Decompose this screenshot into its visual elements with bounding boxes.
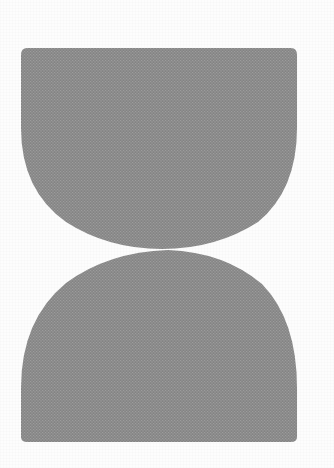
figure-canvas — [0, 0, 334, 468]
figure-svg — [0, 0, 334, 468]
upper-bowl-shape — [21, 48, 297, 249]
